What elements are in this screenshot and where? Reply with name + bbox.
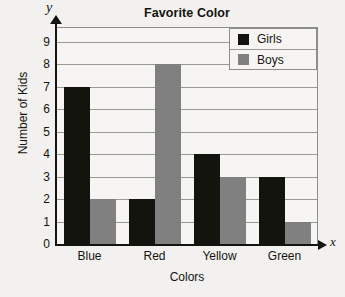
x-axis-arrow-icon (318, 240, 327, 250)
chart-title: Favorite Color (56, 6, 318, 20)
y-tick-label: 0 (30, 237, 50, 251)
x-tick-label-green: Green (268, 249, 301, 263)
x-tick-label-blue: Blue (77, 249, 101, 263)
y-tick-label: 9 (30, 35, 50, 49)
bar-yellow-girls (194, 154, 220, 244)
x-tick-label-yellow: Yellow (202, 249, 236, 263)
y-axis-line (55, 22, 57, 246)
y-axis-title: Number of Kids (16, 43, 30, 183)
x-axis-symbol: x (330, 234, 336, 250)
bar-yellow-boys (220, 177, 246, 245)
bar-series-layer (57, 28, 317, 244)
bar-chart-figure: Favorite Color GirlsBoys y x 0123456789 … (0, 0, 345, 297)
x-axis-tick-labels: BlueRedYellowGreen (56, 249, 318, 267)
y-tick-label: 8 (30, 57, 50, 71)
y-tick-label: 7 (30, 80, 50, 94)
y-axis-tick-labels: 0123456789 (30, 27, 50, 245)
y-tick-label: 1 (30, 215, 50, 229)
bar-blue-boys (90, 199, 116, 244)
x-axis-title: Colors (56, 270, 318, 284)
y-tick-label: 3 (30, 170, 50, 184)
y-axis-symbol: y (46, 0, 52, 16)
bar-green-boys (285, 222, 311, 245)
y-axis-arrow-icon (50, 15, 62, 24)
bar-blue-girls (64, 87, 90, 245)
y-tick-label: 6 (30, 102, 50, 116)
x-tick-label-red: Red (143, 249, 165, 263)
x-axis-line (55, 244, 320, 246)
y-tick-label: 2 (30, 192, 50, 206)
bar-red-boys (155, 64, 181, 244)
y-tick-label: 4 (30, 147, 50, 161)
bar-red-girls (129, 199, 155, 244)
bar-green-girls (259, 177, 285, 245)
y-tick-label: 5 (30, 125, 50, 139)
